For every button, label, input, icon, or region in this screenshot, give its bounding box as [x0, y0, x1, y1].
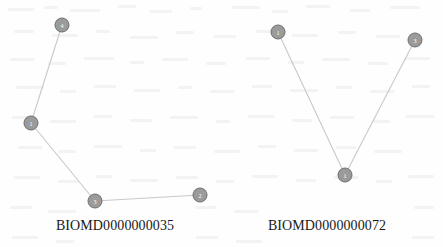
node-circle[interactable]: [271, 25, 285, 39]
edge-L1-L3: [31, 123, 95, 201]
node-circle[interactable]: [408, 33, 422, 47]
graph-node[interactable]: 4: [55, 18, 69, 32]
graph-node[interactable]: 3: [408, 33, 422, 47]
node-circle[interactable]: [338, 168, 352, 182]
graph-canvas: 4 1 3 2: [0, 0, 443, 247]
caption-right-graph: BIOMD0000000072: [222, 218, 432, 234]
graph-node[interactable]: 1: [271, 25, 285, 39]
edge-group-left: [31, 25, 200, 201]
edge-group-right: [278, 32, 415, 175]
edge-L4-L1: [31, 25, 62, 123]
node-circle[interactable]: [24, 116, 38, 130]
edge-L3-L2: [95, 195, 200, 201]
graph-node[interactable]: 1: [24, 116, 38, 130]
node-circle[interactable]: [55, 18, 69, 32]
node-circle[interactable]: [88, 194, 102, 208]
edge-R1b-R3: [345, 40, 415, 175]
caption-left-graph: BIOMD0000000035: [0, 218, 230, 234]
graph-node[interactable]: 3: [88, 194, 102, 208]
graph-node[interactable]: 1: [338, 168, 352, 182]
graph-node[interactable]: 2: [193, 188, 207, 202]
figure-root: 4 1 3 2: [0, 0, 443, 247]
node-group-right: 1 3 1: [271, 25, 422, 182]
graph-panel-right: 1 3 1: [271, 25, 422, 182]
node-group-left: 4 1 3 2: [24, 18, 207, 208]
node-circle[interactable]: [193, 188, 207, 202]
graph-panel-left: 4 1 3 2: [24, 18, 207, 208]
edge-R1-R1b: [278, 32, 345, 175]
